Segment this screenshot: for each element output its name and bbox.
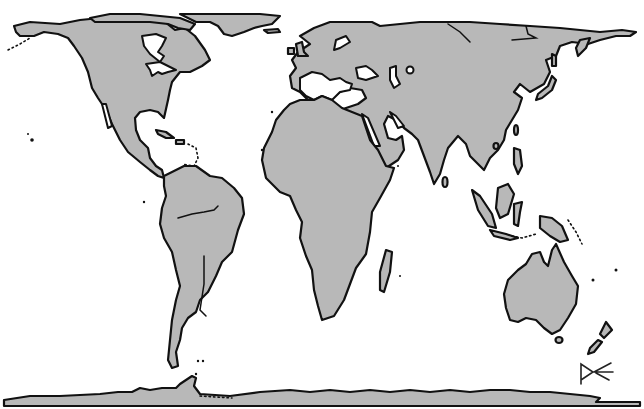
taiwan <box>514 125 518 135</box>
sakhalin <box>552 54 556 66</box>
tasmania <box>556 337 563 343</box>
iceland <box>264 29 280 33</box>
sulawesi <box>514 202 522 226</box>
antarctica <box>4 376 640 406</box>
new-zealand-north <box>600 322 612 338</box>
cape-verde <box>261 149 263 151</box>
fiji <box>615 269 618 272</box>
pacific-islands <box>568 220 582 244</box>
mauritius <box>399 275 401 277</box>
ireland <box>288 48 294 54</box>
aleutian-islands <box>8 38 30 50</box>
new-zealand-south <box>588 340 602 354</box>
borneo <box>496 184 514 218</box>
aral-sea <box>407 67 414 74</box>
signature-mark <box>581 363 613 384</box>
sri-lanka <box>443 177 448 187</box>
cuba <box>156 130 174 138</box>
philippines <box>514 148 522 174</box>
hispaniola <box>176 140 184 144</box>
new-guinea <box>540 216 568 242</box>
madagascar <box>380 250 392 292</box>
galapagos <box>143 201 145 203</box>
south-shetland <box>195 373 197 375</box>
canary-islands <box>271 111 273 113</box>
hainan <box>494 143 499 149</box>
world-map <box>0 0 644 409</box>
sumatra <box>472 190 496 228</box>
java <box>490 230 518 240</box>
lesser-antilles <box>182 144 198 166</box>
north-america <box>14 16 210 178</box>
south-america <box>160 166 244 368</box>
new-caledonia <box>592 279 595 282</box>
australia <box>504 244 578 334</box>
hawaii <box>30 138 34 142</box>
